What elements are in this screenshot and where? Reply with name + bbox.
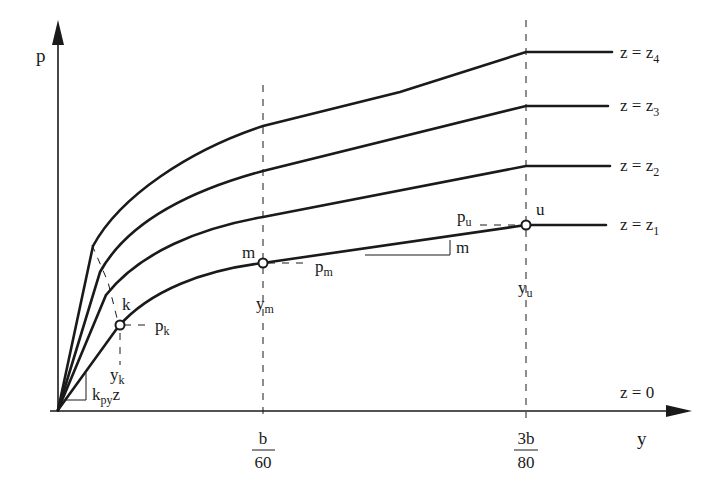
point-m-label: m — [242, 243, 255, 262]
curves — [58, 52, 612, 410]
ym-label: ym — [256, 294, 275, 316]
p-axis-label: p — [36, 45, 46, 66]
yu-label: yu — [518, 278, 533, 300]
point-u — [522, 221, 531, 230]
point-k — [116, 321, 125, 330]
kpyz-label: kpyz — [92, 385, 121, 407]
pk-label: pk — [155, 316, 170, 338]
tick-yu-numerator: 3b — [518, 429, 535, 448]
pu-label: pu — [457, 207, 472, 229]
axes — [50, 20, 692, 417]
curve-labels: z = z4 z = z3 z = z2 z = z1 z = 0 — [620, 43, 659, 402]
yk-label: yk — [110, 365, 125, 387]
label-z2: z = z2 — [620, 156, 659, 179]
pm-label: pm — [315, 257, 334, 279]
tick-ym-denominator: 60 — [255, 453, 272, 472]
point-m — [259, 259, 268, 268]
point-u-label: u — [536, 200, 545, 219]
point-k-label: k — [122, 295, 131, 314]
curve-z1 — [58, 225, 606, 410]
p-y-curve-diagram: p y b 60 3b 80 z = z4 z = z3 z = z2 z = … — [0, 0, 713, 497]
label-z3: z = z3 — [620, 96, 659, 119]
label-z4: z = z4 — [620, 43, 659, 66]
y-axis-label: y — [637, 428, 647, 449]
tick-yu: 3b 80 — [514, 429, 538, 472]
p-axis-arrow-icon — [52, 20, 64, 45]
tick-ym-numerator: b — [259, 429, 268, 448]
y-axis-arrow-icon — [666, 405, 692, 417]
label-z1: z = z1 — [620, 215, 659, 238]
label-z0: z = 0 — [620, 383, 654, 402]
tick-ym: b 60 — [252, 429, 275, 472]
tick-yu-denominator: 80 — [518, 453, 535, 472]
slope-m-label: m — [456, 238, 469, 257]
